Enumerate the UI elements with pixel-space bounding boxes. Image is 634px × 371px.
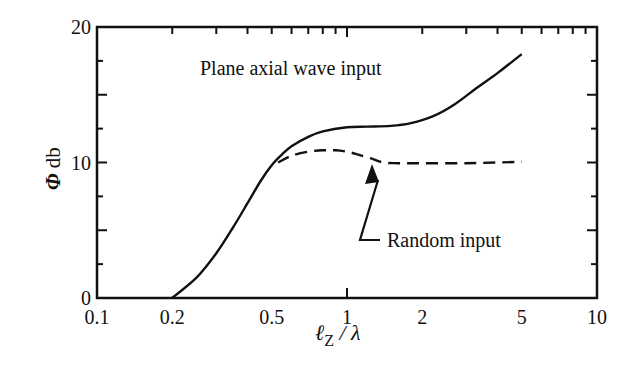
y-tick-label: 0 <box>81 287 91 309</box>
x-tick-label: 5 <box>517 306 527 328</box>
random-input-arrow <box>360 164 380 240</box>
annotation-plane-axial: Plane axial wave input <box>200 57 382 80</box>
x-axis-rest: / λ <box>334 320 361 345</box>
series-plane-axial-wave <box>172 54 521 298</box>
y-tick-label: 10 <box>71 152 91 174</box>
x-tick-label: 2 <box>417 306 427 328</box>
x-tick-label: 0.1 <box>85 306 110 328</box>
x-tick-label: 0.5 <box>259 306 284 328</box>
annotation-random-input: Random input <box>387 229 501 252</box>
x-axis-label: ℓZ / λ <box>315 320 361 349</box>
y-tick-label: 20 <box>71 16 91 38</box>
y-axis-symbol: Φ <box>41 173 65 190</box>
x-axis-subscript: Z <box>324 332 334 349</box>
chart: 0.10.20.51251001020 Plane axial wave inp… <box>0 0 634 371</box>
y-axis-unit: db <box>41 147 65 173</box>
y-axis-label: Φ db <box>41 147 65 190</box>
arrow-head-icon <box>365 164 379 184</box>
x-tick-label: 0.2 <box>160 306 185 328</box>
data-series <box>172 54 521 298</box>
x-tick-label: 10 <box>587 306 607 328</box>
series-random-input <box>278 150 522 163</box>
